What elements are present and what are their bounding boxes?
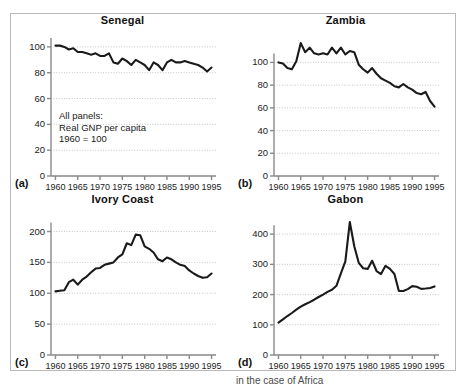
y-tick-label: 0 [11,350,45,360]
y-tick-label: 0 [234,171,268,181]
y-tick-label: 20 [234,148,268,158]
y-tick-label: 300 [234,259,268,269]
y-tick-label: 100 [234,57,268,67]
x-tick-label: 1995 [198,182,226,192]
chart-svg [274,34,439,176]
panel-title-ivory-coast: Ivory Coast [11,193,234,206]
panel-zambia: Zambia (b) 02040608010019601965197019751… [234,14,457,193]
panel-title-senegal: Senegal [11,14,234,27]
figure-frame: Senegal All panels: Real GNP per capita … [10,13,456,371]
y-tick-label: 0 [234,350,268,360]
y-tick-label: 50 [11,319,45,329]
y-tick-label: 100 [234,320,268,330]
chart-svg [274,213,439,355]
panel-ivory-coast: Ivory Coast (c) 050100150200196019651970… [11,193,234,372]
x-tick-label: 1995 [198,361,226,371]
y-tick-label: 0 [11,171,45,181]
panel-title-zambia: Zambia [234,14,457,27]
caption-sliver: in the case of Africa [0,374,466,388]
y-tick-label: 200 [11,227,45,237]
y-tick-label: 400 [234,229,268,239]
plot-area-senegal [51,34,216,176]
data-series-line [278,43,434,107]
chart-svg [51,213,216,355]
x-tick-label: 1995 [421,182,449,192]
y-tick-label: 60 [11,94,45,104]
y-tick-label: 200 [234,290,268,300]
x-tick-label: 1995 [421,361,449,371]
plot-area-gabon [274,213,439,355]
y-tick-label: 100 [11,42,45,52]
panel-gabon: Gabon (d) 010020030040019601965197019751… [234,193,457,372]
y-tick-label: 40 [11,119,45,129]
data-series-line [278,222,434,323]
y-tick-label: 20 [11,145,45,155]
caption-fragment: in the case of Africa [236,375,323,386]
panel-title-gabon: Gabon [234,193,457,206]
y-tick-label: 150 [11,257,45,267]
data-series-line [55,235,211,292]
data-series-line [55,46,211,72]
y-tick-label: 80 [234,80,268,90]
panel-senegal: Senegal All panels: Real GNP per capita … [11,14,234,193]
y-tick-label: 80 [11,68,45,78]
y-tick-label: 40 [234,126,268,136]
plot-area-ivory-coast [51,213,216,355]
y-tick-label: 60 [234,103,268,113]
senegal-annotation: All panels: Real GNP per capita 1960 = 1… [59,110,146,145]
chart-svg [51,34,216,176]
plot-area-zambia [274,34,439,176]
y-tick-label: 100 [11,288,45,298]
